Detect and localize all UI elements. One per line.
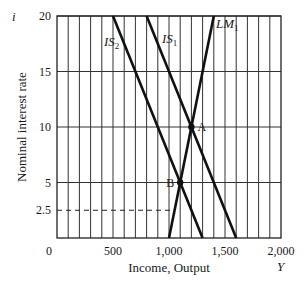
- x-axis-variable: Y: [277, 259, 286, 274]
- x-tick-label: 500: [104, 244, 122, 258]
- point-a: [188, 124, 194, 130]
- grid: [57, 16, 281, 238]
- x-tick-label: 2,000: [268, 244, 295, 258]
- is-lm-chart: LM1IS1IS2 AB 05001,0001,5002,000 2.55101…: [0, 0, 307, 285]
- y-axis-ticks: 2.55101520: [36, 9, 51, 217]
- y-axis-variable: i: [12, 9, 16, 24]
- y-tick-label: 2.5: [36, 203, 51, 217]
- y-tick-label: 15: [39, 65, 51, 79]
- point-label-b: B: [166, 176, 174, 190]
- x-tick-label: 1,000: [156, 244, 183, 258]
- x-tick-label: 0: [46, 244, 52, 258]
- x-axis-label: Income, Output: [128, 260, 210, 275]
- y-axis-label: Nominal interest rate: [14, 72, 29, 182]
- point-label-a: A: [197, 120, 206, 134]
- curve-label-is2: IS2: [103, 34, 119, 51]
- y-tick-label: 10: [39, 120, 51, 134]
- x-tick-label: 1,500: [212, 244, 239, 258]
- curve-label-lm1: LM1: [215, 16, 239, 33]
- y-tick-label: 5: [45, 176, 51, 190]
- x-axis-ticks: 05001,0001,5002,000: [46, 244, 295, 258]
- point-b: [177, 179, 183, 185]
- curve-label-is1: IS1: [161, 31, 177, 48]
- y-tick-label: 20: [39, 9, 51, 23]
